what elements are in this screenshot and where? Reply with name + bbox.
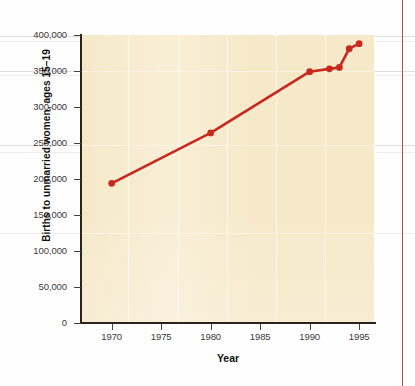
y-tick-label: 50,000	[3, 281, 67, 292]
vertical-gridline	[374, 35, 375, 323]
x-tick	[211, 324, 212, 330]
y-tick	[74, 35, 81, 36]
y-tick	[74, 215, 81, 216]
page-margin-rule	[402, 0, 403, 386]
y-tick	[74, 107, 81, 108]
y-tick-label: 100,000	[3, 245, 67, 256]
y-tick-label: 200,000	[3, 173, 67, 184]
data-point-marker	[306, 68, 313, 75]
data-point-marker	[108, 180, 115, 187]
x-tick-label: 1995	[337, 331, 381, 342]
y-tick-label: 250,000	[3, 137, 67, 148]
x-tick	[310, 324, 311, 330]
x-tick	[161, 324, 162, 330]
plot-area	[82, 35, 374, 323]
x-tick-label: 1980	[189, 331, 233, 342]
y-tick	[74, 179, 81, 180]
data-point-marker	[346, 45, 353, 52]
y-tick-label: 150,000	[3, 209, 67, 220]
x-axis-title: Year	[82, 352, 374, 364]
y-tick	[74, 71, 81, 72]
y-tick	[74, 323, 81, 324]
figure-container: 050,000100,000150,000200,000250,000300,0…	[0, 0, 415, 386]
x-tick-label: 1990	[288, 331, 332, 342]
x-tick	[260, 324, 261, 330]
y-tick	[74, 251, 81, 252]
x-axis-line	[80, 322, 376, 324]
data-point-marker	[326, 65, 333, 72]
y-axis-title: Births to unmarried women, ages 15–19	[41, 21, 52, 271]
y-tick-label: 0	[3, 317, 67, 328]
y-tick-label: 400,000	[3, 29, 67, 40]
x-tick-label: 1975	[139, 331, 183, 342]
data-point-marker	[207, 130, 214, 137]
x-tick-label: 1970	[90, 331, 134, 342]
x-tick-label: 1985	[238, 331, 282, 342]
y-tick	[74, 287, 81, 288]
y-tick-label: 300,000	[3, 101, 67, 112]
y-tick	[74, 143, 81, 144]
x-tick	[112, 324, 113, 330]
y-tick-label: 350,000	[3, 65, 67, 76]
x-tick	[359, 324, 360, 330]
data-point-marker	[336, 64, 343, 71]
data-point-marker	[356, 40, 363, 47]
data-series-line	[82, 35, 374, 323]
